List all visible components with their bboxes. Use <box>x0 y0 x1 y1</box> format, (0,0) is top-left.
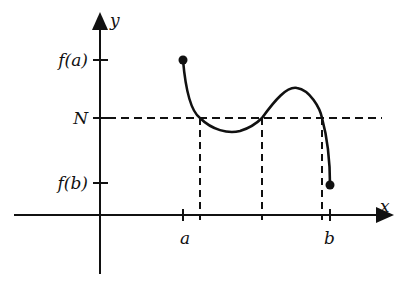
function-curve <box>183 60 330 185</box>
label-b: b <box>324 228 335 248</box>
label-N: N <box>72 108 89 128</box>
start-point-dot <box>179 56 188 65</box>
label-fb: f(b) <box>56 173 88 193</box>
y-axis-label: y <box>109 10 120 30</box>
end-point-dot <box>326 181 335 190</box>
x-axis-label: x <box>380 196 390 216</box>
label-a: a <box>180 228 190 248</box>
ivt-diagram: x y f(a) N f(b) a b <box>0 0 396 283</box>
label-fa: f(a) <box>56 50 88 70</box>
